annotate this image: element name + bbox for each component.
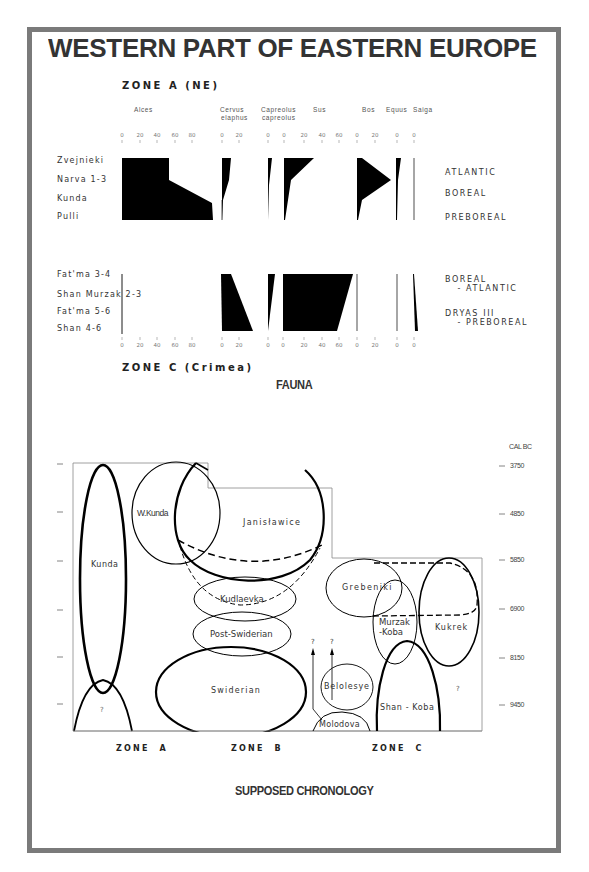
svg-text:40: 40 [154,342,161,348]
svg-text:20: 20 [372,132,379,138]
cal-bc-value: 8150 [510,654,524,661]
svg-text:0: 0 [395,342,399,348]
unknown-label: ? [311,638,315,646]
cal-bc-value: 5850 [510,556,524,563]
capreolus-zone-c [268,274,275,331]
svg-text:60: 60 [172,132,179,138]
cal-bc-axis-title: CAL BC [509,443,532,450]
svg-text:20: 20 [137,342,144,348]
svg-text:80: 80 [189,342,196,348]
culture-label-shan-koba: Shan - Koba [380,703,434,712]
cal-bc-value: 4850 [510,510,524,517]
svg-text:0: 0 [220,132,224,138]
svg-text:0: 0 [412,132,416,138]
unknown-label: ? [456,685,460,693]
svg-text:20: 20 [137,132,144,138]
equus-zone-a [396,158,401,220]
svg-text:0: 0 [412,342,416,348]
svg-text:0: 0 [220,342,224,348]
svg-text:80: 80 [189,132,196,138]
svg-text:60: 60 [336,342,343,348]
svg-text:20: 20 [236,342,243,348]
sus-zone-c [283,274,353,331]
svg-text:60: 60 [336,132,343,138]
svg-text:40: 40 [319,132,326,138]
svg-text:20: 20 [372,342,379,348]
zone-a-column-label: ZONE A [116,744,168,753]
svg-text:0: 0 [281,342,285,348]
zone-c-axis-ticks: 020406080 020 0 0204060 020 00 [120,342,416,348]
cal-bc-value: 6900 [510,605,524,612]
svg-text:0: 0 [266,132,270,138]
culture-label-belolesye: Belolesye [324,682,370,691]
zone-a-silhouettes [122,158,401,220]
cervus-zone-c [221,274,253,331]
sus-zone-a [284,158,314,220]
culture-label-janislawice: Janisławice [243,518,301,527]
unknown-label: ? [330,638,334,646]
svg-text:0: 0 [355,132,359,138]
zone-c-silhouettes [221,274,418,331]
culture-label-murzak-koba: Murzak-Koba [379,617,410,637]
culture-label-swiderian: Swiderian [211,686,261,695]
svg-text:60: 60 [172,342,179,348]
unknown-label: ? [100,706,104,714]
kunda-ellipse [80,465,126,693]
zone-b-column-label: ZONE B [231,744,283,753]
svg-text:0: 0 [395,132,399,138]
janislawice-dashed-boundary [178,540,322,561]
right-axis-ticks [499,466,505,705]
culture-label-molodova: Molodova [319,720,360,729]
left-axis-ticks [57,464,63,704]
svg-text:0: 0 [282,132,286,138]
svg-text:20: 20 [301,132,308,138]
bos-zone-a [357,158,391,220]
culture-label-kudlaevka: Kudlaevka [220,594,264,604]
chronology-diagram [57,462,505,744]
culture-label-kunda: Kunda [91,560,118,569]
cervus-zone-a [222,158,231,220]
svg-text:0: 0 [120,342,124,348]
fauna-diagram: 020406080 020 0 0204060 020 00 [0,0,589,872]
alces-zone-a [122,158,213,220]
svg-text:40: 40 [154,132,161,138]
svg-text:0: 0 [120,132,124,138]
svg-text:40: 40 [319,342,326,348]
saiga-zone-c [413,274,418,331]
svg-text:0: 0 [266,342,270,348]
cal-bc-value: 3750 [510,462,524,469]
chronology-section-title: SUPPOSED CHRONOLOGY [235,783,373,798]
zone-c-tick-marks [122,337,414,340]
culture-label-kukrek: Kukrek [435,623,468,632]
culture-label-w-kunda: W.Kunda [137,508,168,518]
cal-bc-value: 9450 [510,701,524,708]
svg-text:20: 20 [236,132,243,138]
capreolus-zone-a [268,158,272,220]
svg-text:20: 20 [301,342,308,348]
culture-label-grebeniki: Grebeniki [342,583,393,592]
svg-text:0: 0 [355,342,359,348]
zone-c-column-label: ZONE C [372,744,424,753]
culture-label-post-swiderian: Post-Swiderian [210,629,273,639]
zone-a-axis-ticks: 020406080 020 0 0204060 020 00 [120,132,416,138]
zone-a-tick-marks [122,140,414,143]
